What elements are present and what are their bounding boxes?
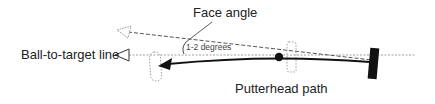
face-angle-leader	[186, 22, 212, 42]
angle-value-label: 1-2 degrees	[186, 42, 231, 52]
ball-to-target-label: Ball-to-target line	[21, 47, 119, 62]
putterhead-path-line	[168, 58, 370, 64]
face-angle-label: Face angle	[193, 5, 257, 20]
putter-head	[368, 48, 380, 80]
path-arrowhead-icon	[158, 58, 172, 70]
face-angle-line	[128, 32, 372, 60]
face-angle-arrowhead-icon	[117, 26, 131, 38]
putterhead-path-label: Putterhead path	[235, 81, 328, 96]
golf-ball	[275, 53, 283, 61]
ghost-putterhead-impact	[287, 42, 296, 72]
